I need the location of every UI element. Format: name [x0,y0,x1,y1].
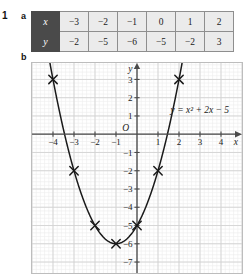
x-tick-label: 3 [198,137,203,147]
table-cell-x: 0 [147,12,176,32]
x-tick-label: −4 [48,137,58,147]
y-tick-label: 1 [128,111,133,121]
origin-label: O [122,123,129,133]
table-cell-x: −3 [60,12,89,32]
table-cell-x: −1 [118,12,147,32]
y-tick-label: −2 [123,166,133,176]
x-axis-label: x [233,137,239,147]
values-table-wrapper: x −3 −2 −1 0 1 2 y −2 −5 −6 −5 −2 3 [31,11,234,52]
equation-label: y = x² + 2x − 5 [170,105,230,115]
parabola-graph: −4−3−2−11234321−1−2−3−4−5−6−7Oxyy = x² +… [31,62,243,274]
table-cell-y: −5 [147,32,176,52]
y-tick-label: 2 [128,93,133,103]
y-tick-label: −1 [123,148,133,158]
table-cell-y: −5 [89,32,118,52]
y-tick-label: −5 [123,221,133,231]
table-cell-y: −2 [60,32,89,52]
x-tick-label: 2 [177,137,182,147]
y-tick-label: −6 [123,239,133,249]
y-tick-label: −3 [123,184,133,194]
table-cell-y: −2 [176,32,205,52]
table-cell-y: 3 [205,32,234,52]
part-a-label: a [21,11,26,21]
y-tick-label: −4 [123,202,133,212]
y-axis-label: y [127,64,133,74]
table-header-y: y [32,32,60,52]
x-tick-label: −1 [111,137,121,147]
x-tick-label: −2 [90,137,100,147]
x-tick-label: 4 [219,137,224,147]
y-tick-label: −7 [123,257,133,267]
x-tick-label: 1 [156,137,161,147]
graph-canvas: −4−3−2−11234321−1−2−3−4−5−6−7Oxyy = x² +… [32,63,242,273]
table-header-x: x [32,12,60,32]
table-cell-y: −6 [118,32,147,52]
table-cell-x: −2 [89,12,118,32]
table-row-x: x −3 −2 −1 0 1 2 [32,12,234,32]
table-cell-x: 2 [205,12,234,32]
part-b-label: b [21,52,27,62]
y-tick-label: 3 [128,75,133,85]
question-number: 1 [2,10,8,21]
values-table: x −3 −2 −1 0 1 2 y −2 −5 −6 −5 −2 3 [31,11,234,52]
x-tick-label: −3 [69,137,79,147]
table-row-y: y −2 −5 −6 −5 −2 3 [32,32,234,52]
table-cell-x: 1 [176,12,205,32]
